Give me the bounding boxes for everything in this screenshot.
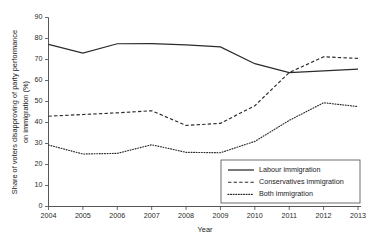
x-tick-label: 2009 bbox=[212, 211, 228, 220]
x-tick-label: 2013 bbox=[350, 211, 366, 220]
chart-legend: Labour immigrationConservatives immigrat… bbox=[221, 160, 360, 203]
y-tick-label: 60 bbox=[35, 75, 43, 84]
x-tick-label: 2006 bbox=[109, 211, 125, 220]
y-tick-label: 20 bbox=[35, 159, 43, 168]
data-series-layer bbox=[49, 44, 359, 154]
y-axis-title: Share of voters disapproving of party pe… bbox=[10, 30, 30, 194]
y-axis-title-line1: Share of voters disapproving of party pe… bbox=[10, 30, 19, 194]
y-axis-ticks: 0102030405060708090 bbox=[35, 12, 49, 210]
y-tick-label: 10 bbox=[35, 180, 43, 189]
x-tick-label: 2010 bbox=[247, 211, 263, 220]
x-tick-label: 2011 bbox=[281, 211, 296, 220]
x-tick-label: 2005 bbox=[75, 211, 91, 220]
line-chart-canvas: 0102030405060708090 20042005200620072008… bbox=[0, 0, 374, 248]
y-tick-label: 70 bbox=[35, 54, 43, 63]
legend-label-conservatives-immigration: Conservatives immigration bbox=[259, 177, 344, 186]
legend-label-both-immigration: Both immigration bbox=[259, 189, 313, 198]
series-line-labour-immigration bbox=[49, 44, 359, 73]
y-tick-label: 0 bbox=[39, 201, 43, 210]
x-tick-label: 2008 bbox=[178, 211, 194, 220]
y-tick-label: 90 bbox=[35, 12, 43, 21]
series-line-conservatives-immigration bbox=[49, 57, 359, 126]
x-axis-ticks: 2004200520062007200820092010201120122013 bbox=[41, 207, 367, 221]
y-axis-title-line2: on immigration (%) bbox=[21, 81, 30, 143]
legend-label-labour-immigration: Labour immigration bbox=[259, 165, 321, 174]
y-tick-label: 50 bbox=[35, 96, 43, 105]
y-tick-label: 80 bbox=[35, 33, 43, 42]
y-tick-label: 30 bbox=[35, 138, 43, 147]
x-tick-label: 2012 bbox=[316, 211, 332, 220]
x-tick-label: 2004 bbox=[41, 211, 57, 220]
x-tick-label: 2007 bbox=[144, 211, 160, 220]
series-line-both-immigration bbox=[49, 103, 359, 154]
y-tick-label: 40 bbox=[35, 117, 43, 126]
x-axis-title: Year bbox=[198, 225, 213, 234]
